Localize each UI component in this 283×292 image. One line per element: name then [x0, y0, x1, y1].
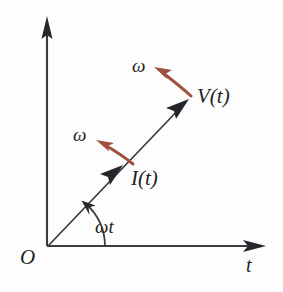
- omega-label-voltage: ω: [132, 56, 145, 75]
- vertical-axis: [42, 16, 53, 246]
- horizontal-axis: [47, 240, 266, 252]
- phasor-diagram-figure: O t ωt V(t) I(t) ω ω: [0, 0, 283, 292]
- omega-arrow-current-shaft: [105, 145, 133, 164]
- voltage-phasor-label: V(t): [197, 86, 230, 107]
- omega-arrow-current: [96, 140, 133, 164]
- current-phasor-label: I(t): [131, 168, 158, 189]
- horizontal-axis-label: t: [246, 255, 252, 275]
- angle-label: ωt: [95, 217, 114, 236]
- voltage-arrowhead-shape: [166, 99, 189, 119]
- voltage-phasor-arrowhead: [166, 99, 189, 119]
- phasor-diagram-canvas: [0, 0, 283, 292]
- omega-arrow-voltage: [154, 67, 191, 96]
- origin-label: O: [20, 247, 35, 268]
- omega-label-current: ω: [73, 125, 86, 144]
- omega-arrow-voltage-shaft: [163, 73, 191, 96]
- current-phasor-arrowhead: [100, 165, 123, 185]
- current-arrowhead-shape: [100, 165, 123, 185]
